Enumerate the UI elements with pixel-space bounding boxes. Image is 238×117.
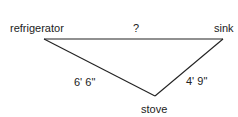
label-stove-sink-distance: 4' 9" — [186, 75, 207, 87]
label-refrigerator: refrigerator — [10, 22, 64, 34]
edge-refrigerator-stove — [44, 39, 155, 96]
edge-stove-sink — [155, 39, 223, 96]
kitchen-triangle-diagram: refrigerator ? sink 6' 6" 4' 9" stove — [0, 0, 238, 117]
label-refrigerator-stove-distance: 6' 6" — [74, 76, 95, 88]
label-unknown-distance: ? — [133, 22, 139, 34]
label-stove: stove — [141, 103, 167, 115]
label-sink: sink — [214, 22, 234, 34]
